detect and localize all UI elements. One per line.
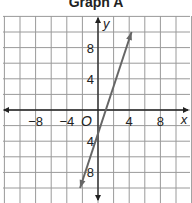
svg-text:−4: −4 [59, 114, 74, 129]
svg-text:8: 8 [87, 165, 94, 180]
svg-text:O: O [81, 113, 92, 129]
svg-text:8: 8 [87, 41, 94, 56]
axes [3, 17, 189, 201]
tick-labels: −8−4488448Oxy [28, 16, 188, 180]
svg-text:4: 4 [126, 114, 133, 129]
coordinate-plane: −8−4488448Oxy [0, 0, 192, 203]
svg-text:−8: −8 [28, 114, 43, 129]
svg-text:4: 4 [87, 72, 94, 87]
svg-text:8: 8 [157, 114, 164, 129]
svg-text:y: y [102, 16, 111, 31]
svg-text:4: 4 [87, 134, 94, 149]
svg-text:x: x [180, 112, 188, 127]
